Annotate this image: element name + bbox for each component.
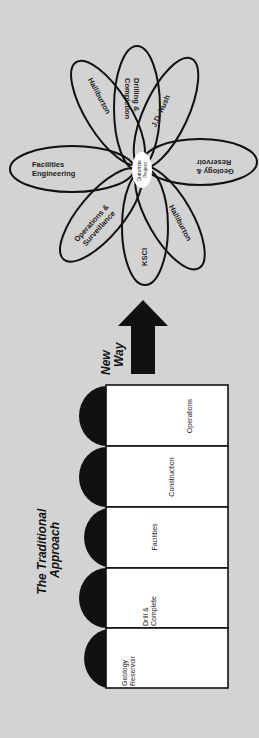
svg-text:Construction: Construction [168,457,175,496]
stage-cap [79,447,107,507]
svg-text:Facilities Engineering: Facilities Engineering [32,160,76,178]
svg-text:The Traditional Approach: The Traditional Approach [35,505,62,594]
petal-label: Engineering [32,169,76,178]
petal-label: Reservoir [197,158,232,167]
stage-label: Drill & [142,607,149,626]
stage-drill-complete: Drill & Complete [106,568,228,628]
petal-facilities-engineering: Facilities Engineering [10,146,134,192]
stage-cap [84,508,107,567]
stage-label: Facilities [151,523,158,551]
stage-label: Complete [150,596,158,626]
stage-label: Geology [121,659,129,686]
petal-label: Geology & [196,167,234,176]
stage-geology-reservoir: Geology Reservoir [106,628,228,688]
petal-label: Drilling & [132,78,141,112]
petal-geology-reservoir: Geology & Reservoir [143,139,257,185]
petal-drilling-completion: Drilling & Completion [114,46,160,170]
stage-facilities: Facilities [106,507,228,568]
petal-diagram: Drilling & Completion J.D. Rush Geology … [10,46,257,285]
svg-text:Facilities: Facilities [151,523,158,551]
stage-construction: Construction [106,446,228,507]
svg-text:Halliburton: Halliburton [86,76,113,116]
stage-cap [84,629,107,688]
petal-label: Facilities [32,160,64,169]
new-way-label: Way [112,341,126,367]
petal-label: Halliburton [86,76,113,116]
traditional-title: Approach [48,522,62,579]
petal-label: J.D. Rush [149,93,172,129]
stage-label: Operations [186,398,194,433]
svg-text:Operations: Operations [186,398,194,433]
new-way-label: New [99,350,113,375]
traditional-approach: The Traditional Approach Operations Cons… [35,385,228,688]
svg-text:Geology & Reservoir: Geology & Reservoir [194,158,234,176]
svg-text:Geology Reservoir: Geology Reservoir [121,655,136,686]
traditional-title: The Traditional [35,508,49,594]
new-way-arrow: New Way [99,300,168,375]
diagram-canvas: Drilling & Completion J.D. Rush Geology … [0,0,259,738]
center-label: Project [142,162,148,178]
svg-text:KSCI: KSCI [140,248,149,266]
svg-text:J.D. Rush: J.D. Rush [149,93,172,129]
stage-label: Reservoir [129,655,136,686]
stage-label: Construction [168,457,175,496]
center-node: Diatomite Project [132,152,152,188]
stage-operations: Operations [106,385,228,446]
stage-cap [79,386,107,446]
svg-text:New Way: New Way [99,341,126,375]
petal-label: KSCI [140,248,149,266]
stage-cap [79,568,107,628]
